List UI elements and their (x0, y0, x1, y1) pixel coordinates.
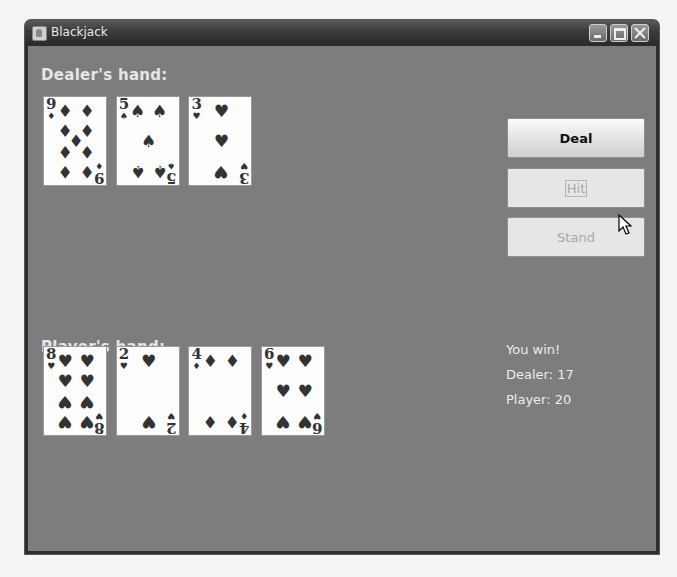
hearts-icon: ♥ (78, 373, 96, 390)
diamonds-icon: ♦ (201, 353, 219, 370)
card-rank-top: 4♦ (191, 347, 201, 371)
card-pips: ♦♦♦♦ (201, 351, 239, 431)
diamonds-icon: ♦ (56, 163, 74, 180)
title-bar[interactable]: Blackjack (25, 20, 659, 46)
card-rank-top: 9♦ (46, 97, 56, 121)
card-pips: ♥♥ (129, 351, 167, 431)
hearts-icon: ♥ (56, 393, 74, 410)
spades-icon: ♠ (140, 133, 158, 150)
diamonds-icon: ♦ (78, 163, 96, 180)
result-text: You win! (506, 342, 560, 357)
card-rank-top: 3♥ (191, 97, 201, 121)
hearts-icon: ♥ (212, 133, 230, 150)
dealer-hand-label: Dealer's hand: (41, 66, 168, 84)
card-rank-top: 2♥ (119, 347, 129, 371)
hearts-icon: ♥ (46, 362, 56, 371)
mouse-cursor-icon (618, 214, 632, 236)
hearts-icon: ♥ (78, 353, 96, 370)
hearts-icon: ♥ (78, 393, 96, 410)
card-pips: ♥♥♥ (201, 101, 239, 181)
player-card-4-of-diamonds: 4♦4♦♦♦♦♦ (188, 346, 252, 436)
player-score: Player: 20 (506, 392, 571, 407)
hearts-icon: ♥ (296, 353, 314, 370)
spades-icon: ♠ (119, 112, 129, 121)
hearts-icon: ♥ (264, 362, 274, 371)
game-table: Dealer's hand: 9♦9♦♦♦♦♦♦♦♦♦♦5♠5♠♠♠♠♠♠3♥3… (28, 46, 656, 551)
diamonds-icon: ♦ (223, 353, 241, 370)
hit-button-label: Hit (565, 180, 587, 197)
card-pips: ♠♠♠♠♠ (129, 101, 167, 181)
deal-button[interactable]: Deal (507, 118, 645, 158)
card-rank-bottom: 3♥ (239, 161, 249, 185)
hit-button[interactable]: Hit (507, 168, 645, 208)
diamonds-icon: ♦ (223, 413, 241, 430)
dealer-card-3-of-hearts: 3♥3♥♥♥♥ (188, 96, 252, 186)
blackjack-window: Blackjack Dealer's hand: 9♦9♦♦♦♦♦♦♦♦♦♦5♠… (25, 20, 659, 554)
hearts-icon: ♥ (296, 413, 314, 430)
spades-icon: ♠ (129, 103, 147, 120)
card-rank-bottom: 2♥ (166, 411, 176, 435)
diamonds-icon: ♦ (56, 103, 74, 120)
spades-icon: ♠ (151, 163, 169, 180)
close-button[interactable] (631, 24, 649, 42)
player-card-8-of-hearts: 8♥8♥♥♥♥♥♥♥♥♥ (43, 346, 107, 436)
dealer-card-9-of-diamonds: 9♦9♦♦♦♦♦♦♦♦♦♦ (43, 96, 107, 186)
player-card-6-of-hearts: 6♥6♥♥♥♥♥♥♥ (261, 346, 325, 436)
hearts-icon: ♥ (56, 413, 74, 430)
dealer-score: Dealer: 17 (506, 367, 574, 382)
hearts-icon: ♥ (56, 353, 74, 370)
hearts-icon: ♥ (140, 353, 158, 370)
card-rank-top: 8♥ (46, 347, 56, 371)
hearts-icon: ♥ (212, 103, 230, 120)
hearts-icon: ♥ (274, 353, 292, 370)
deal-button-label: Deal (560, 131, 593, 146)
hearts-icon: ♥ (212, 163, 230, 180)
hearts-icon: ♥ (274, 383, 292, 400)
card-pips: ♥♥♥♥♥♥ (274, 351, 312, 431)
spades-icon: ♠ (129, 163, 147, 180)
hearts-icon: ♥ (191, 112, 201, 121)
card-pips: ♦♦♦♦♦♦♦♦♦ (56, 101, 94, 181)
diamonds-icon: ♦ (56, 143, 74, 160)
player-card-2-of-hearts: 2♥2♥♥♥ (116, 346, 180, 436)
hearts-icon: ♥ (239, 161, 249, 170)
diamonds-icon: ♦ (201, 413, 219, 430)
card-rank-top: 6♥ (264, 347, 274, 371)
hearts-icon: ♥ (140, 413, 158, 430)
diamonds-icon: ♦ (78, 103, 96, 120)
hearts-icon: ♥ (119, 362, 129, 371)
card-rank-top: 5♠ (119, 97, 129, 121)
dealer-card-5-of-spades: 5♠5♠♠♠♠♠♠ (116, 96, 180, 186)
diamonds-icon: ♦ (78, 143, 96, 160)
hearts-icon: ♥ (166, 411, 176, 420)
spades-icon: ♠ (151, 103, 169, 120)
diamonds-icon: ♦ (46, 112, 56, 121)
window-title: Blackjack (51, 25, 108, 39)
hearts-icon: ♥ (296, 383, 314, 400)
hearts-icon: ♥ (274, 413, 292, 430)
maximize-button[interactable] (610, 24, 628, 42)
app-icon (32, 26, 47, 41)
minimize-button[interactable] (589, 24, 607, 42)
card-pips: ♥♥♥♥♥♥♥♥ (56, 351, 94, 431)
diamonds-icon: ♦ (191, 362, 201, 371)
hearts-icon: ♥ (78, 413, 96, 430)
hearts-icon: ♥ (56, 373, 74, 390)
stand-button-label: Stand (557, 230, 595, 245)
